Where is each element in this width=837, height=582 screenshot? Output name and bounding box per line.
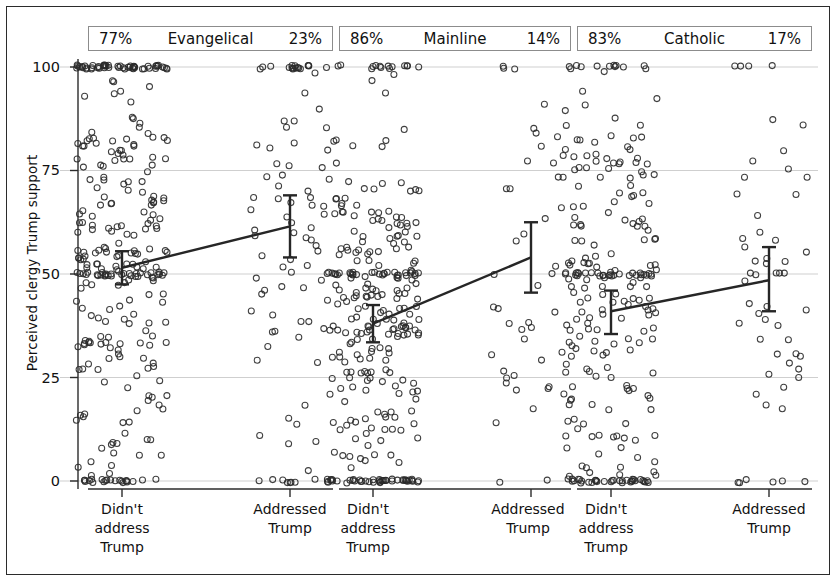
panel-left-pct: 83% <box>588 30 621 48</box>
y-tick-50: 50 <box>20 266 60 282</box>
panel-header-mainline: 86% Mainline 14% <box>339 26 571 51</box>
y-tick-0: 0 <box>20 473 60 489</box>
x-label-left-p2: Didn'taddressTrump <box>313 500 423 557</box>
panel-right-pct: 17% <box>768 30 801 48</box>
y-tick-25: 25 <box>20 370 60 386</box>
x-label-right-p3: AddressedTrump <box>714 500 824 538</box>
y-tick-100: 100 <box>20 59 60 75</box>
plot-graphics <box>0 0 837 582</box>
x-label-left-p1: Didn'taddressTrump <box>67 500 177 557</box>
panel-right-pct: 14% <box>527 30 560 48</box>
y-tick-75: 75 <box>20 162 60 178</box>
y-axis-tick-labels: 100 75 50 25 0 <box>18 0 60 582</box>
panel-header-evangelical: 77% Evangelical 23% <box>88 26 333 51</box>
panel-left-pct: 77% <box>99 30 132 48</box>
panel-right-pct: 23% <box>289 30 322 48</box>
panel-left-pct: 86% <box>350 30 383 48</box>
x-label-left-p3: Didn'taddressTrump <box>551 500 661 557</box>
panel-header-catholic: 83% Catholic 17% <box>577 26 812 51</box>
chart-canvas: Perceived clergy Trump support 100 75 50… <box>0 0 837 582</box>
